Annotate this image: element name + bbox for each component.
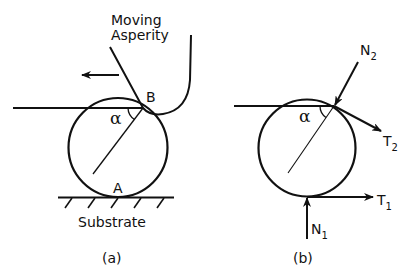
friction-diagram: α Moving Asperity B A Substrate (a) α N2 xyxy=(0,0,411,280)
contact-label-b: B xyxy=(146,89,156,105)
alpha-label-a: α xyxy=(110,108,122,128)
asperity-label-line2: Asperity xyxy=(111,27,169,43)
caption-a: (a) xyxy=(102,250,122,266)
substrate-hatching xyxy=(65,198,164,208)
force-label-t2: T2 xyxy=(382,133,398,153)
force-label-n1: N1 xyxy=(311,221,328,241)
force-arrow-t2 xyxy=(334,106,381,131)
angle-arc-b xyxy=(320,106,326,118)
force-arrow-n2 xyxy=(335,62,358,105)
angle-arc-a xyxy=(128,108,135,120)
asperity-label-line1: Moving xyxy=(111,12,162,28)
force-label-t1: T1 xyxy=(376,192,392,212)
contact-label-a: A xyxy=(113,180,123,196)
radius-line-b xyxy=(288,106,334,173)
panel-a: α Moving Asperity B A Substrate (a) xyxy=(13,12,191,266)
force-label-n2: N2 xyxy=(360,42,377,62)
caption-b: (b) xyxy=(293,250,313,266)
alpha-label-b: α xyxy=(299,106,311,126)
substrate-label: Substrate xyxy=(78,214,146,230)
panel-b: α N2 T2 T1 N1 (b) xyxy=(234,42,398,266)
